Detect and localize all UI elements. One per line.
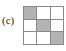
grid-cell-r2-c2 <box>51 32 63 44</box>
grid-cell-r1-c2 <box>51 20 63 32</box>
grid-3x3 <box>23 6 64 45</box>
grid-cell-r1-c0 <box>24 20 36 32</box>
grid-cell-r2-c1 <box>37 32 49 44</box>
grid-cell-r0-c1 <box>37 7 49 19</box>
grid-cell-r1-c1 <box>37 20 49 32</box>
grid-cell-r0-c2 <box>51 7 63 19</box>
grid-cell-r0-c0 <box>24 7 36 19</box>
panel-label: (c) <box>2 15 14 26</box>
figure-panel: (c) <box>0 0 66 51</box>
grid-cell-r2-c0 <box>24 32 36 44</box>
